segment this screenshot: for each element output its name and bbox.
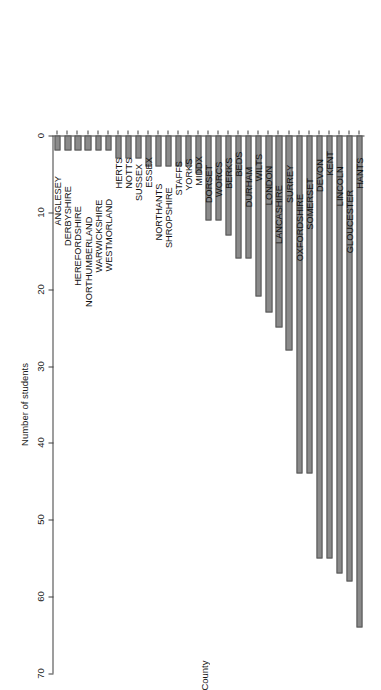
category-axis-tick [308,130,309,134]
category-axis-label: SUSSEX [133,163,143,200]
value-axis-tick-label: 20 [34,283,45,294]
value-axis-tick-label: 70 [34,668,45,679]
bar [326,135,332,558]
bar-row [125,135,131,158]
bar [265,135,271,312]
category-axis-tick [137,130,138,134]
category-axis-tick [56,130,57,134]
category-axis-tick [278,130,279,134]
category-axis-tick [358,130,359,134]
category-axis-label: LANCASHIRE [274,185,284,244]
category-axis-label: ANGLESEY [52,176,62,226]
bar-row [316,135,322,558]
category-axis-label: YORKS [183,158,193,190]
bar [115,135,121,158]
category-axis-tick [328,130,329,134]
category-axis-label: LONDON [263,165,273,204]
bar [54,135,60,150]
value-axis-tick-label: 40 [34,437,45,448]
category-axis-label: NORTHUMBERLAND [83,216,93,306]
category-axis-label: HERTS [113,157,123,188]
value-axis-tick-label: 50 [34,514,45,525]
value-axis-tick [48,289,53,290]
value-axis-tick-label: 10 [34,207,45,218]
bar [316,135,322,558]
category-axis-label: NOTTS [123,157,133,188]
category-axis-label: BEDS [233,151,243,176]
category-axis-label: DURHAM [243,166,253,206]
bar-row [54,135,60,150]
category-axis-label: DEVON [314,159,324,192]
category-axis-tick [177,130,178,134]
category-axis-label: SHROPSHIRE [163,187,173,248]
category-axis-tick [217,130,218,134]
y-axis-title: County [198,660,209,690]
bar [296,135,302,473]
bar [165,135,171,166]
category-axis-tick [117,130,118,134]
bar-row [105,135,111,150]
bar [135,135,141,158]
category-axis-tick [318,130,319,134]
bar [84,135,90,150]
bar [64,135,70,150]
bar-row [84,135,90,150]
category-axis-label: SURREY [284,164,294,202]
category-axis-label: MIDDX [193,156,203,186]
value-axis-tick [48,135,53,136]
bar [95,135,101,150]
category-axis-tick [298,130,299,134]
category-axis-tick [257,130,258,134]
bar-row [95,135,101,150]
category-axis-tick [147,130,148,134]
bar-row [265,135,271,312]
value-axis-tick [48,366,53,367]
category-axis-label: ESSEX [143,157,153,188]
x-axis-title: Number of students [18,363,29,446]
bar [125,135,131,158]
bar-row [64,135,70,150]
category-axis-label: SOMERSET [304,178,314,230]
bar-row [74,135,80,150]
category-axis-tick [127,130,128,134]
category-axis-tick [97,130,98,134]
category-axis-tick [247,130,248,134]
bar-row [165,135,171,166]
value-axis-tick-label: 30 [34,360,45,371]
bar [155,135,161,166]
bar-row [135,135,141,158]
category-axis-label: BERKS [223,157,233,188]
category-axis-tick [197,130,198,134]
value-axis-tick [48,519,53,520]
bar [105,135,111,150]
category-axis-label: NORTHANTS [153,183,163,240]
bar-row [356,135,362,627]
category-axis-tick [348,130,349,134]
category-axis-label: LINCOLN [334,166,344,206]
category-axis-label: DERBYSHIRE [62,186,72,246]
category-axis-label: WESTMORLAND [103,198,113,270]
bar-row [115,135,121,158]
category-axis-label: KENT [324,151,334,176]
value-axis-tick [48,673,53,674]
category-axis-tick [338,130,339,134]
bar [74,135,80,150]
category-axis-label: WARWICKSHIRE [93,199,103,272]
category-axis-label: DORSET [203,164,213,202]
category-axis-tick [66,130,67,134]
category-axis-tick [167,130,168,134]
category-axis-tick [207,130,208,134]
category-axis-tick [227,130,228,134]
value-axis-tick [48,596,53,597]
category-axis-label: HANTS [354,157,364,188]
category-axis-label: HEREFORDSHIRE [73,206,83,286]
bar-row [296,135,302,473]
category-axis-tick [237,130,238,134]
category-axis-label: WORCS [213,161,223,196]
value-axis-tick-label: 60 [34,591,45,602]
value-axis-tick [48,442,53,443]
category-axis-label: OXFORDSHIRE [294,193,304,260]
